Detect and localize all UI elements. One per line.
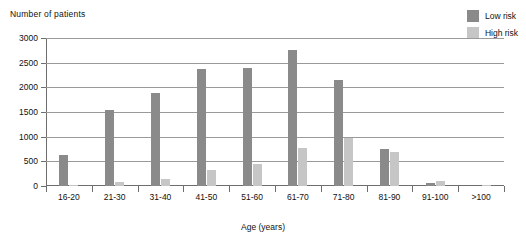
y-tick-label: 3000	[19, 33, 38, 43]
bar-low-risk	[105, 110, 114, 186]
y-axis-title: Number of patients	[10, 9, 85, 19]
y-tick-label: 500	[24, 156, 38, 166]
bar-chart: Number of patients Low risk High risk 05…	[0, 0, 526, 252]
x-tick-label: 91-100	[412, 192, 458, 202]
bar-groups	[46, 38, 504, 186]
bar-low-risk	[151, 93, 160, 186]
bar-high-risk	[344, 138, 353, 186]
bar-high-risk	[253, 164, 262, 186]
bar-low-risk	[380, 149, 389, 186]
x-tick-label: 31-40	[138, 192, 184, 202]
x-tick-label: 61-70	[275, 192, 321, 202]
bar-low-risk	[334, 80, 343, 186]
bar-group	[275, 38, 321, 186]
bar-low-risk	[197, 69, 206, 186]
bar-group	[321, 38, 367, 186]
legend-item-low-risk: Low risk	[467, 10, 518, 22]
bar-group	[458, 38, 504, 186]
x-tick-label: 51-60	[229, 192, 275, 202]
x-tick-label: 81-90	[367, 192, 413, 202]
x-axis-title: Age (years)	[0, 222, 526, 232]
legend-swatch-low-risk	[467, 10, 479, 22]
bar-group	[229, 38, 275, 186]
bar-low-risk	[59, 155, 68, 186]
legend-label-high-risk: High risk	[485, 28, 518, 38]
x-tick-label: 71-80	[321, 192, 367, 202]
y-tick-label: 1000	[19, 132, 38, 142]
x-tick-label: 21-30	[92, 192, 138, 202]
legend-label-low-risk: Low risk	[485, 11, 516, 21]
x-tick-label: 41-50	[183, 192, 229, 202]
x-tick-mark	[504, 186, 505, 192]
bar-group	[46, 38, 92, 186]
y-tick-label: 2000	[19, 82, 38, 92]
bar-high-risk	[207, 170, 216, 186]
x-tick-label: 16-20	[46, 192, 92, 202]
bar-group	[92, 38, 138, 186]
y-tick-label: 2500	[19, 58, 38, 68]
plot-area: 050010001500200025003000	[46, 38, 504, 186]
bar-high-risk	[390, 152, 399, 186]
y-tick-label: 1500	[19, 107, 38, 117]
bar-high-risk	[161, 179, 170, 186]
bar-low-risk	[243, 68, 252, 186]
y-tick-label: 0	[33, 181, 38, 191]
x-axis-labels: 16-2021-3031-4041-5051-6061-7071-8081-90…	[46, 192, 504, 202]
bar-low-risk	[288, 50, 297, 186]
x-tick-label: >100	[458, 192, 504, 202]
bar-group	[412, 38, 458, 186]
bar-group	[367, 38, 413, 186]
bar-group	[183, 38, 229, 186]
bar-high-risk	[298, 148, 307, 186]
bar-group	[138, 38, 184, 186]
